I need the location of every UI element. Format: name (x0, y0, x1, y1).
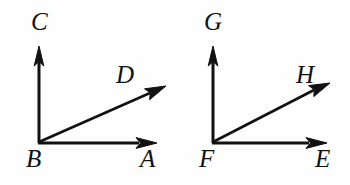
vertex-label-f: F (199, 146, 214, 171)
vertex-label-e: E (315, 146, 330, 171)
vertex-label-a: A (140, 146, 155, 171)
vertex-label-d: D (116, 62, 134, 87)
vertex-label-h: H (296, 62, 314, 87)
geometry-figure-canvas: C D B A G H F E (0, 0, 350, 185)
vertex-label-g: G (204, 9, 222, 34)
figure-angle-abc: C D B A (0, 0, 175, 185)
figure-angle-efg: G H F E (175, 0, 350, 185)
vertex-label-c: C (31, 9, 48, 34)
vertex-label-b: B (26, 146, 41, 171)
ray-fh-line (213, 90, 314, 142)
ray-bd-line (39, 93, 150, 142)
